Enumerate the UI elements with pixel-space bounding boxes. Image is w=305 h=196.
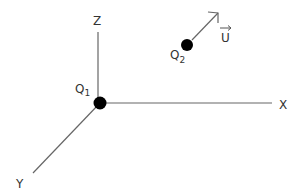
x-axis-label: X — [279, 98, 287, 112]
charge-q1-dot — [94, 97, 107, 110]
coordinate-diagram: Z X Y Q1 Q2 U — [0, 0, 305, 196]
charge-q1-label: Q1 — [75, 82, 90, 98]
y-axis — [33, 104, 99, 173]
vector-u-label: U — [221, 31, 230, 45]
vector-u-shaft — [192, 13, 218, 40]
z-axis-label: Z — [93, 14, 101, 28]
y-axis-label: Y — [15, 177, 24, 191]
charge-q2-label: Q2 — [170, 48, 185, 65]
charge-q2-dot — [181, 39, 193, 51]
